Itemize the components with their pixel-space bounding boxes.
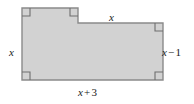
side-label-left-variable: x bbox=[9, 46, 14, 58]
side-label-top-variable: x bbox=[109, 11, 114, 23]
side-label-right-operator: − bbox=[167, 46, 175, 58]
side-label-bottom-operator: + bbox=[83, 86, 91, 98]
side-label-right-constant: 1 bbox=[176, 46, 182, 58]
side-label-top: x bbox=[109, 12, 114, 23]
l-shaped-polygon bbox=[22, 8, 163, 80]
geometry-figure: x x x−1 x+3 bbox=[0, 0, 194, 104]
side-label-bottom: x+3 bbox=[78, 87, 97, 98]
side-label-left: x bbox=[9, 47, 14, 58]
side-label-bottom-constant: 3 bbox=[92, 86, 98, 98]
side-label-right: x−1 bbox=[162, 47, 181, 58]
